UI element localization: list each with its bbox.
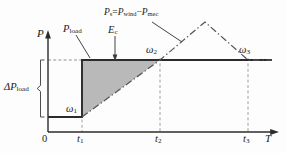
- y-axis-label: P: [37, 28, 44, 39]
- tick-label-t2: t2: [155, 134, 161, 145]
- origin-label: 0: [42, 134, 47, 145]
- tick-label-t3: t3: [243, 134, 249, 145]
- delta-p-load-label: ΔPload: [4, 82, 29, 93]
- omega3-label: ω3: [239, 45, 250, 56]
- omega2-label: ω2: [146, 45, 157, 56]
- surplus-power-formula-label: Ps=Pwind−Pmec: [104, 8, 158, 18]
- x-axis-arrowhead: [270, 129, 279, 135]
- surplus-label-leader-line: [152, 22, 182, 42]
- p-load-label: Pload: [63, 24, 82, 35]
- x-axis-label: T: [265, 133, 271, 144]
- delta-p-load-brace: [37, 60, 44, 117]
- tick-label-t1: t1: [77, 134, 83, 145]
- y-axis-arrowhead: [45, 30, 51, 38]
- p-load-leader-line: [76, 35, 90, 58]
- omega1-label: ω1: [66, 104, 77, 115]
- diagram-svg: [0, 0, 287, 153]
- figure-canvas: P T 0 t1 t2 t3 ΔPload Pload Ec Ps=Pwind−…: [0, 0, 287, 153]
- kinetic-energy-label: Ec: [108, 25, 118, 36]
